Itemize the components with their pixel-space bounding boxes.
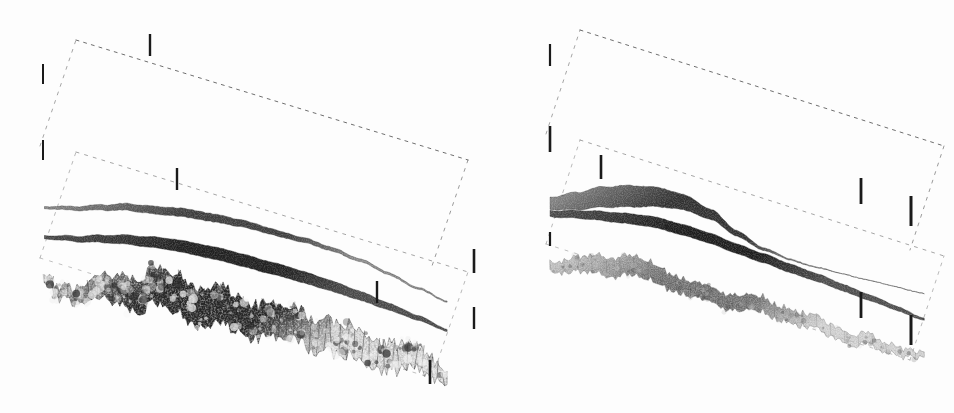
figure-container	[0, 0, 954, 413]
surface-plot-figure	[0, 0, 954, 413]
